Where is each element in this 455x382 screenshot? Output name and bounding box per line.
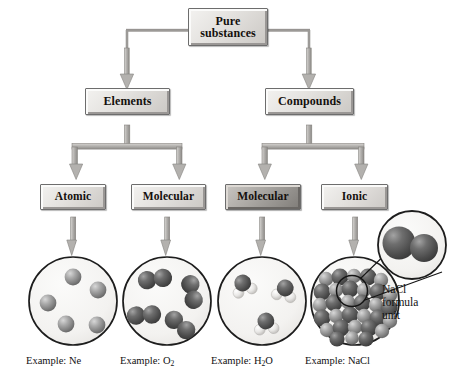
- arrow-ionic-to-model: [349, 217, 359, 256]
- particle-model-o2: [123, 257, 211, 345]
- node-molecular-compound[interactable]: Molecular: [225, 184, 301, 210]
- caption-o2: Example: O2: [120, 355, 174, 368]
- node-atomic-label: Atomic: [55, 191, 91, 203]
- arrow-molecular-element-to-model: [161, 217, 171, 256]
- node-elements-label: Elements: [103, 95, 151, 107]
- nacl-formula-unit-label: NaCl formula unit: [382, 283, 418, 322]
- node-ionic[interactable]: Ionic: [321, 184, 388, 210]
- callout-line-3: unit: [382, 309, 418, 322]
- node-molecular-element-label: Molecular: [143, 191, 194, 203]
- node-pure-substances-label: Pure substances: [200, 15, 256, 40]
- node-ionic-label: Ionic: [342, 191, 367, 203]
- node-atomic[interactable]: Atomic: [40, 184, 106, 210]
- particle-model-h2o: [218, 257, 306, 345]
- callout-line-2: formula: [382, 296, 418, 309]
- caption-nacl: Example: NaCl: [305, 355, 370, 366]
- arrow-atomic-to-model: [67, 217, 77, 256]
- arrow-molecular-compound-to-model: [256, 217, 266, 256]
- node-elements[interactable]: Elements: [85, 88, 170, 115]
- node-molecular-compound-label: Molecular: [237, 191, 288, 203]
- node-molecular-element[interactable]: Molecular: [131, 184, 206, 210]
- connector-elements-to-level3: [70, 125, 186, 180]
- caption-ne: Example: Ne: [26, 355, 81, 366]
- pure-substances-diagram: Pure substances Elements Compounds Atomi…: [0, 0, 455, 382]
- caption-h2o: Example: H2O: [211, 355, 273, 368]
- connector-compounds-to-level3: [258, 125, 368, 180]
- node-pure-substances[interactable]: Pure substances: [188, 8, 268, 46]
- arrow-to-compounds: [302, 48, 315, 90]
- particle-model-ne: [29, 257, 117, 345]
- callout-line-1: NaCl: [382, 283, 418, 296]
- arrow-to-elements: [120, 48, 133, 90]
- node-compounds-label: Compounds: [278, 95, 341, 107]
- node-compounds[interactable]: Compounds: [265, 88, 354, 115]
